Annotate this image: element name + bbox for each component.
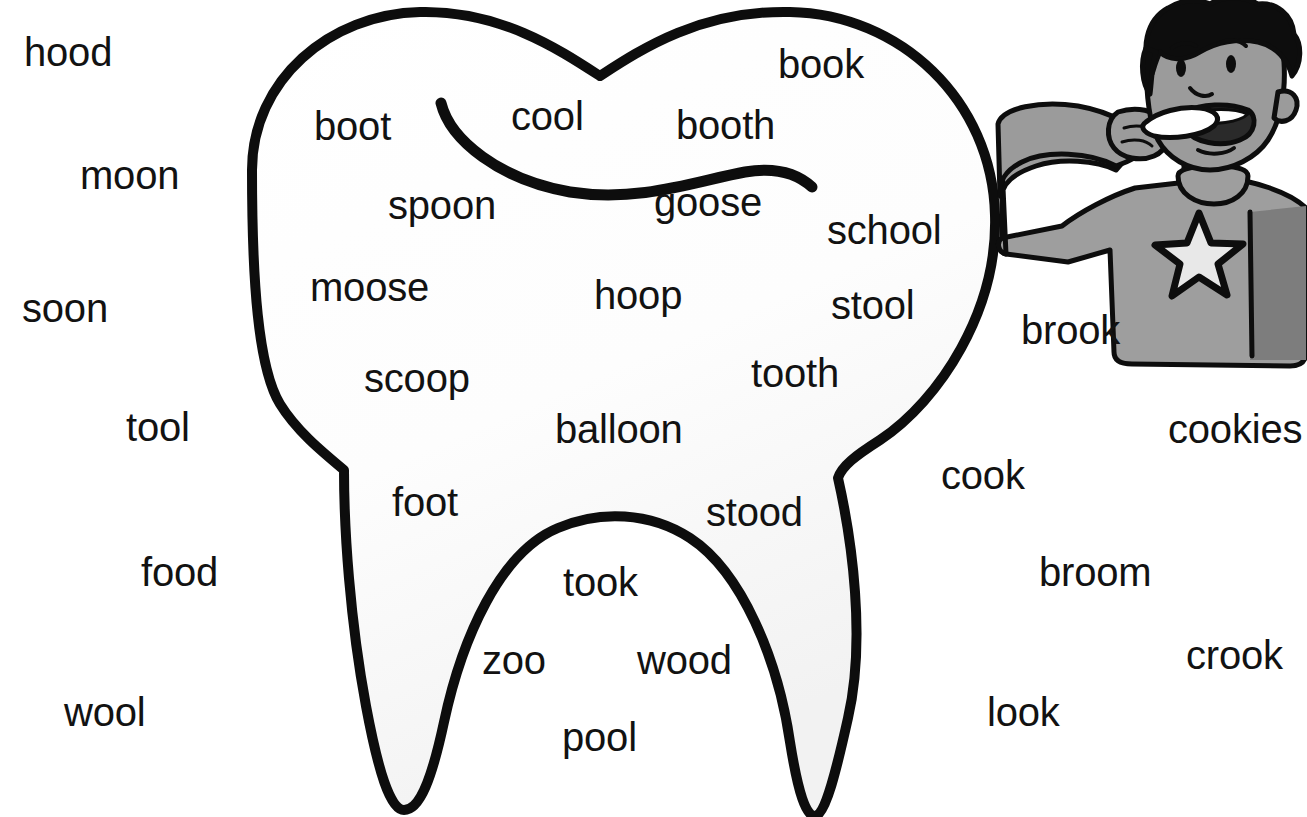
word-book[interactable]: book	[778, 44, 864, 84]
word-zoo[interactable]: zoo	[482, 640, 546, 680]
word-tool[interactable]: tool	[126, 407, 190, 447]
word-layer: hood moon soon tool food wool brook cook…	[0, 0, 1307, 817]
word-tooth[interactable]: tooth	[751, 353, 839, 393]
word-look[interactable]: look	[987, 692, 1060, 732]
word-cool[interactable]: cool	[511, 96, 584, 136]
word-cook[interactable]: cook	[941, 455, 1025, 495]
word-spoon[interactable]: spoon	[388, 185, 496, 225]
word-took[interactable]: took	[563, 562, 638, 602]
word-balloon[interactable]: balloon	[555, 409, 683, 449]
word-crook[interactable]: crook	[1186, 635, 1283, 675]
word-wood[interactable]: wood	[637, 640, 732, 680]
word-food[interactable]: food	[141, 552, 218, 592]
word-hoop[interactable]: hoop	[594, 275, 682, 315]
word-pool[interactable]: pool	[562, 717, 637, 757]
word-soon[interactable]: soon	[22, 288, 108, 328]
word-booth[interactable]: booth	[676, 105, 775, 145]
word-moon[interactable]: moon	[80, 155, 179, 195]
word-brook[interactable]: brook	[1021, 310, 1120, 350]
worksheet-page: hood moon soon tool food wool brook cook…	[0, 0, 1307, 817]
word-school[interactable]: school	[827, 210, 941, 250]
word-hood[interactable]: hood	[24, 32, 112, 72]
word-cookies[interactable]: cookies	[1168, 409, 1302, 449]
word-foot[interactable]: foot	[392, 482, 458, 522]
word-stood[interactable]: stood	[706, 492, 803, 532]
word-moose[interactable]: moose	[310, 267, 429, 307]
word-stool[interactable]: stool	[831, 285, 915, 325]
word-scoop[interactable]: scoop	[364, 358, 470, 398]
word-wool[interactable]: wool	[64, 692, 145, 732]
word-broom[interactable]: broom	[1039, 552, 1151, 592]
word-boot[interactable]: boot	[314, 106, 391, 146]
word-goose[interactable]: goose	[654, 182, 762, 222]
